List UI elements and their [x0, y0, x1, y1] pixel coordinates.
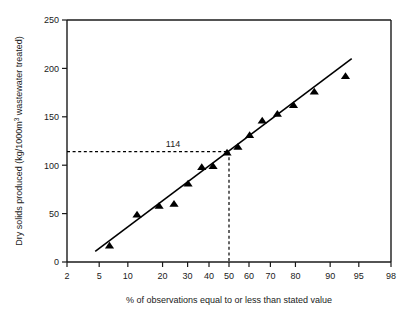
x-tick-label: 10 [123, 271, 133, 281]
x-tick-label: 2 [64, 271, 69, 281]
annotation-value-label: 114 [166, 139, 180, 149]
x-tick-label: 70 [265, 271, 275, 281]
x-tick-label: 5 [97, 271, 102, 281]
x-tick-label: 90 [325, 271, 335, 281]
x-tick-label: 20 [158, 271, 168, 281]
x-tick-label: 80 [290, 271, 300, 281]
y-tick-label: 50 [49, 209, 59, 219]
y-tick-label: 0 [54, 257, 59, 267]
y-axis-title-post: wastewater treated) [14, 36, 24, 118]
probability-plot-chart: 050100150200250 251020304050607080909598… [0, 0, 417, 320]
y-axis-title-pre: Dry solids produced (kg/1000m [14, 121, 24, 246]
x-tick-label: 98 [386, 271, 396, 281]
x-tick-label: 50 [224, 271, 234, 281]
x-tick-label: 40 [204, 271, 214, 281]
x-tick-label: 60 [244, 271, 254, 281]
y-tick-label: 100 [44, 161, 59, 171]
y-axis-title: Dry solids produced (kg/1000m3 wastewate… [13, 36, 25, 246]
y-tick-label: 150 [44, 112, 59, 122]
x-tick-label: 30 [183, 271, 193, 281]
y-tick-label: 250 [44, 15, 59, 25]
x-axis-title: % of observations equal to or less than … [126, 295, 332, 305]
svg-text:Dry solids produced (kg/1000m3: Dry solids produced (kg/1000m3 wastewate… [13, 36, 25, 246]
y-tick-label: 200 [44, 64, 59, 74]
x-tick-label: 95 [354, 271, 364, 281]
